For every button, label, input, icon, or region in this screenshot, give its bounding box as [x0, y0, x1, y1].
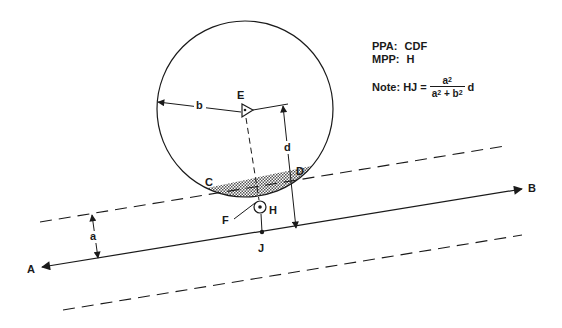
ppa-label: PPA:: [372, 40, 397, 52]
formula-numerator: a2: [440, 75, 453, 86]
note-formula: Note: HJ = a2 a2 + b2 d: [372, 75, 474, 99]
mpp-label: MPP:: [372, 53, 400, 65]
label-e-point: E: [237, 90, 244, 101]
label-c-point: C: [205, 177, 213, 188]
mpp-value: H: [407, 53, 415, 65]
dimension-d: [283, 106, 296, 228]
label-d-point: D: [296, 166, 304, 177]
geometry-diagram: [0, 0, 562, 328]
label-a-dimension: a: [90, 231, 96, 242]
label-j-point: J: [258, 243, 264, 254]
label-b-dimension: b: [196, 100, 203, 111]
label-h-point: H: [269, 205, 277, 216]
label-f-point: F: [222, 215, 229, 226]
notes-block: PPA: CDF MPP: H Note: HJ = a2 a2 + b2 d: [372, 40, 474, 99]
label-b-point: B: [528, 183, 536, 194]
point-j-marker: [260, 230, 264, 234]
ppa-value: CDF: [405, 40, 428, 52]
note-label: Note: HJ =: [372, 81, 427, 94]
formula-multiplier: d: [468, 81, 475, 94]
lower-dashed-line: [63, 235, 522, 310]
formula-fraction: a2 a2 + b2: [430, 75, 465, 99]
line-ab: [42, 189, 522, 267]
label-a-point: A: [27, 264, 35, 275]
point-e-triangle: [242, 104, 253, 117]
label-d-dimension: d: [284, 142, 291, 153]
formula-denominator: a2 + b2: [430, 86, 465, 99]
ppa-row: PPA: CDF: [372, 40, 474, 53]
mpp-row: MPP: H: [372, 53, 474, 66]
